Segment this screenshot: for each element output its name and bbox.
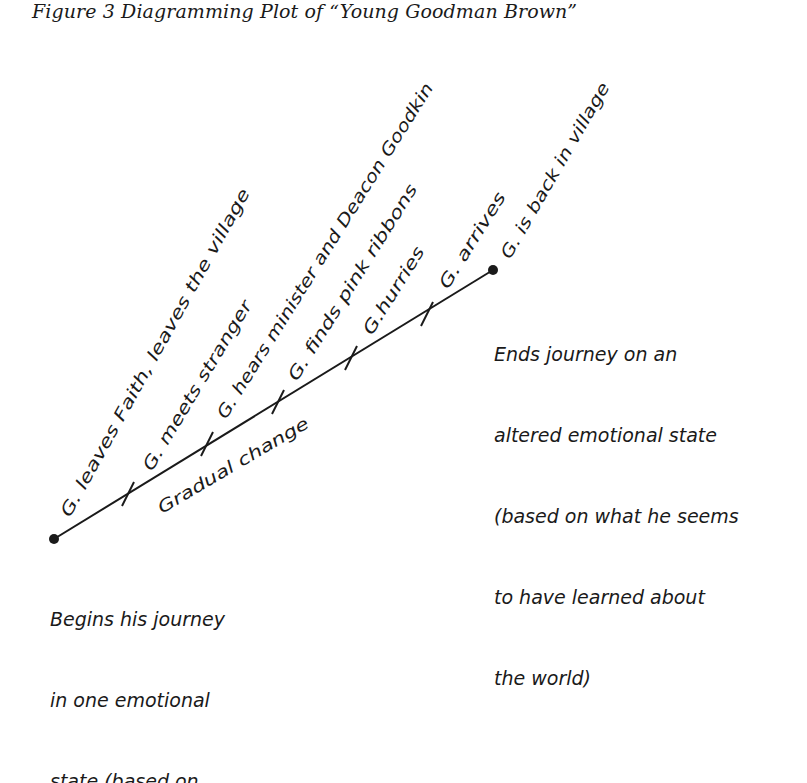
start-point-dot: [49, 534, 59, 544]
event-label-arrives: G. arrives: [434, 188, 509, 292]
end-note-line: Ends journey on an: [494, 341, 739, 368]
tick-mark: [201, 432, 213, 456]
start-note-line: Begins his journey: [50, 606, 225, 633]
event-label-hears-minister: G. hears minister and Deacon Goodkin: [212, 79, 437, 422]
tick-mark: [122, 482, 134, 506]
tick-mark: [345, 346, 357, 370]
start-note-line: state (based on: [50, 768, 225, 783]
end-point-dot: [488, 265, 498, 275]
end-note: Ends journey on an altered emotional sta…: [494, 287, 739, 719]
event-label-back-in-village: G. is back in village: [496, 79, 613, 262]
end-note-line: the world): [494, 665, 739, 692]
start-note: Begins his journey in one emotional stat…: [50, 552, 225, 783]
end-note-line: to have learned about: [494, 584, 739, 611]
end-note-line: (based on what he seems: [494, 503, 739, 530]
start-note-line: in one emotional: [50, 687, 225, 714]
end-note-line: altered emotional state: [494, 422, 739, 449]
tick-mark: [272, 390, 284, 414]
